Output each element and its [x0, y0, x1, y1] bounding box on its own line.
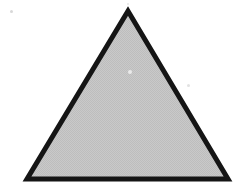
figure-canvas	[0, 0, 243, 192]
triangle-shape	[27, 11, 228, 179]
triangle-illustration	[0, 0, 243, 192]
